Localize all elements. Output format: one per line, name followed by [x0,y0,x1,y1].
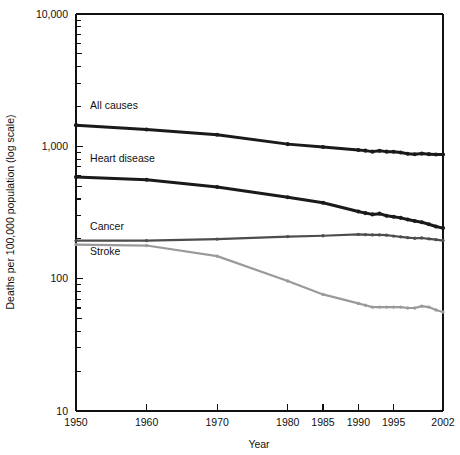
data-point [441,310,444,313]
data-point [145,178,149,182]
data-point [384,214,388,218]
x-tick-label: 1980 [276,416,300,428]
data-point [145,128,149,132]
data-point [392,150,396,154]
x-axis-title: Year [248,438,270,450]
data-point [364,304,367,307]
data-point [377,149,381,153]
data-point [420,236,423,239]
x-tick-label: 2002 [431,416,455,428]
data-point [385,234,388,237]
data-point [413,237,416,240]
x-tick-label: 1970 [205,416,229,428]
data-point [370,150,374,154]
data-point [441,152,445,156]
data-point [413,219,417,223]
data-point [399,235,402,238]
data-point [286,235,289,238]
data-point [378,233,381,236]
chart-figure: 10,0001,00010010 19501960197019801985199… [0,0,460,455]
data-point [74,123,78,127]
data-point [399,216,403,220]
data-point [74,243,77,246]
data-point [385,305,388,308]
y-axis-title: Deaths per 100,000 population (log scale… [4,115,16,310]
x-tick-label: 1960 [135,416,159,428]
data-point [286,142,290,146]
data-point [399,305,402,308]
data-point [441,226,445,230]
series-label-heart-disease: Heart disease [90,152,155,164]
x-tick-label: 1950 [64,416,88,428]
data-point [216,237,219,240]
data-point [215,185,219,189]
plot-frame [76,14,443,411]
data-point [371,305,374,308]
data-point [363,149,367,153]
data-point [420,304,423,307]
data-point [406,236,409,239]
data-point [216,254,219,257]
series-line-stroke [76,245,443,312]
data-point [356,148,360,152]
data-point [392,234,395,237]
series-label-cancer: Cancer [90,220,124,232]
data-point [406,217,410,221]
data-point [420,152,424,156]
data-point [356,209,360,213]
data-point [145,244,148,247]
data-point [406,152,410,156]
data-point [434,152,438,156]
data-point [74,239,77,242]
data-point [434,224,438,228]
data-point [321,145,325,149]
mortality-trends-chart: 10,0001,00010010 19501960197019801985199… [0,0,460,455]
data-point [357,302,360,305]
data-point [420,220,424,224]
data-point [441,239,444,242]
data-point [427,152,431,156]
data-point [145,239,148,242]
series-label-all-causes: All causes [90,99,138,111]
data-point [413,152,417,156]
y-axis-tick-labels: 10,0001,00010010 [36,8,68,417]
data-point [413,306,416,309]
data-point [392,215,396,219]
data-point [321,234,324,237]
data-point [392,305,395,308]
y-tick-label: 10 [56,405,68,417]
data-point [363,211,367,215]
series-line-all-causes [76,125,443,154]
data-point [215,133,219,137]
data-point [371,233,374,236]
data-point [364,233,367,236]
data-point [427,305,430,308]
x-tick-label: 1985 [311,416,335,428]
data-point [378,305,381,308]
data-point [427,237,430,240]
data-point [384,150,388,154]
data-point [434,238,437,241]
data-point [399,150,403,154]
data-point [377,212,381,216]
data-point [321,201,325,205]
data-point [74,175,78,179]
data-point [357,233,360,236]
y-tick-label: 1,000 [42,140,68,152]
y-axis-ticks [76,14,83,411]
series-line-heart-disease [76,177,443,228]
x-tick-label: 1995 [382,416,406,428]
data-point [406,306,409,309]
data-point [427,222,431,226]
data-point [286,279,289,282]
x-tick-label: 1990 [347,416,371,428]
data-point [286,195,290,199]
data-point [370,212,374,216]
series-label-stroke: Stroke [90,245,121,257]
data-point [434,308,437,311]
x-axis-tick-labels: 19501960197019801985199019952002 [64,416,455,428]
x-axis-ticks [76,404,443,411]
y-tick-label: 100 [50,272,68,284]
data-point [321,293,324,296]
y-tick-label: 10,000 [36,8,68,20]
